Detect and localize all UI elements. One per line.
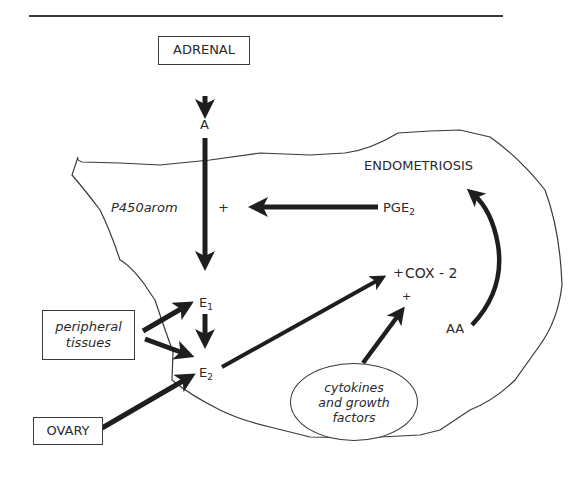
diagram-graphics xyxy=(0,0,585,489)
e2-sub: 2 xyxy=(207,372,213,382)
e1-base: E xyxy=(199,295,207,310)
arrow-e2-to-cox2 xyxy=(222,279,380,367)
cytokines-line1: cytokines xyxy=(324,380,384,395)
ovary-label: OVARY xyxy=(46,423,89,439)
ovary-box: OVARY xyxy=(33,417,103,445)
cytokines-line2: and growth xyxy=(318,395,389,410)
label-endometriosis: ENDOMETRIOSIS xyxy=(364,159,473,172)
label-a: A xyxy=(200,118,209,131)
cytokines-line3: factors xyxy=(332,410,375,425)
peripheral-label-line2: tissues xyxy=(66,335,111,351)
adrenal-label: ADRENAL xyxy=(173,42,235,58)
e2-base: E xyxy=(199,365,207,380)
arrow-peripheral-to-e2 xyxy=(145,339,186,354)
arrow-cytokines-to-cox2 xyxy=(363,313,400,363)
label-e2: E2 xyxy=(199,366,213,382)
sign-plus-cox2-below: + xyxy=(402,291,411,302)
peripheral-label-line1: peripheral xyxy=(55,319,122,335)
pge2-sub: 2 xyxy=(409,207,415,217)
sign-plus-cox2-left: + xyxy=(393,266,404,279)
label-p450arom: P450arom xyxy=(111,201,178,214)
sign-plus-aromatase: + xyxy=(218,201,229,214)
pge2-base: PGE xyxy=(383,200,409,215)
adrenal-box: ADRENAL xyxy=(158,36,250,65)
arrow-aa-to-pge2 xyxy=(472,194,499,325)
label-aa: AA xyxy=(446,322,464,335)
cytokines-oval: cytokines and growth factors xyxy=(290,363,418,441)
label-cox2: COX - 2 xyxy=(405,266,457,280)
arrow-ovary-to-e2 xyxy=(102,378,188,428)
peripheral-tissues-box: peripheral tissues xyxy=(42,310,135,360)
label-e1: E1 xyxy=(199,296,213,312)
e1-sub: 1 xyxy=(207,302,213,312)
label-pge2: PGE2 xyxy=(383,201,415,217)
